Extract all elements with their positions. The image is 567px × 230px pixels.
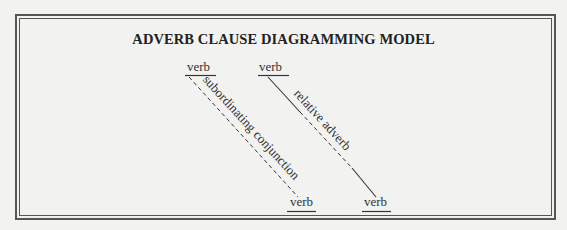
right-solid-connector-bottom — [352, 168, 376, 197]
left-top-verb: verb — [187, 60, 210, 74]
left-dashed-connector — [189, 77, 298, 197]
diagram-lines — [0, 0, 567, 230]
right-top-verb: verb — [259, 60, 282, 74]
right-bottom-verb: verb — [364, 195, 387, 209]
left-bottom-verb: verb — [290, 195, 313, 209]
